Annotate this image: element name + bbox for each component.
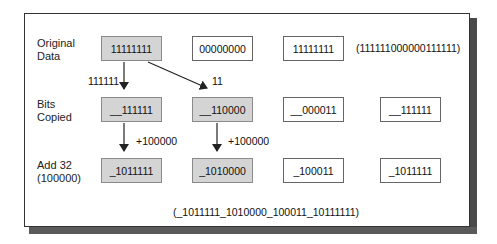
result-bits: (_1011111_1010000_100011_10111111) [173,206,359,218]
arrow-label-copy-diag: 11 [212,75,223,87]
arrow-label-add-col2: +100000 [228,135,269,147]
arrow-label-add-col1: +100000 [136,135,177,147]
arrow-label-copy-down: 111111 [88,75,119,87]
arrow-diagonal-icon [148,62,207,88]
